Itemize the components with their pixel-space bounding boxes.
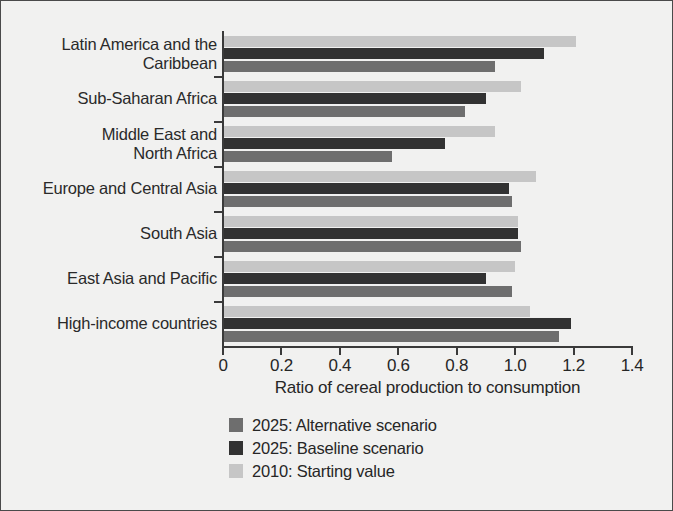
y-axis-tick — [214, 211, 223, 213]
x-axis-tick-label: 0.4 — [328, 356, 351, 376]
bar — [223, 261, 515, 272]
x-axis-tick-label: 0.2 — [270, 356, 293, 376]
chart-legend: 2025: Alternative scenario2025: Baseline… — [229, 415, 437, 484]
category-label: Latin America and theCaribbean — [2, 35, 217, 73]
bar — [223, 61, 495, 72]
category-label: Europe and Central Asia — [2, 179, 217, 198]
legend-label: 2025: Alternative scenario — [252, 416, 437, 435]
bar — [223, 331, 559, 342]
bar — [223, 273, 486, 284]
legend-item[interactable]: 2025: Baseline scenario — [229, 438, 437, 458]
legend-swatch-icon — [229, 418, 243, 432]
x-axis-tick-label: 0 — [218, 356, 227, 376]
plot-area — [223, 31, 632, 346]
bar-group — [223, 301, 632, 346]
category-label: South Asia — [2, 224, 217, 243]
legend-label: 2010: Starting value — [252, 462, 395, 481]
category-label: East Asia and Pacific — [2, 269, 217, 288]
bar-group — [223, 166, 632, 211]
chart-figure: Latin America and theCaribbeanSub-Sahara… — [0, 0, 673, 511]
bar — [223, 151, 392, 162]
x-axis-tick — [573, 346, 575, 355]
bar — [223, 286, 512, 297]
bar — [223, 171, 536, 182]
category-label: High-income countries — [2, 314, 217, 333]
legend-item[interactable]: 2010: Starting value — [229, 461, 437, 481]
y-axis-tick — [214, 166, 223, 168]
bar — [223, 138, 445, 149]
bar-group — [223, 31, 632, 76]
bar — [223, 48, 544, 59]
x-axis-tick — [280, 346, 282, 355]
bar — [223, 241, 521, 252]
bar — [223, 306, 530, 317]
bar-group — [223, 211, 632, 256]
legend-label: 2025: Baseline scenario — [252, 439, 424, 458]
category-label: Sub-Saharan Africa — [2, 89, 217, 108]
y-axis-tick — [214, 121, 223, 123]
bar — [223, 228, 518, 239]
x-axis-tick — [456, 346, 458, 355]
bar-group — [223, 121, 632, 166]
y-axis-tick — [214, 256, 223, 258]
bar — [223, 81, 521, 92]
bar — [223, 216, 518, 227]
bar — [223, 196, 512, 207]
bar — [223, 183, 509, 194]
bar-group — [223, 256, 632, 301]
y-axis-tick — [214, 76, 223, 78]
bar — [223, 93, 486, 104]
x-axis-title: Ratio of cereal production to consumptio… — [222, 378, 633, 398]
x-axis-tick-label: 0.8 — [445, 356, 468, 376]
bar — [223, 106, 465, 117]
bar — [223, 318, 571, 329]
x-axis-tick-label: 1.0 — [504, 356, 527, 376]
legend-swatch-icon — [229, 441, 243, 455]
y-axis-line — [222, 31, 224, 346]
x-axis-line — [222, 346, 633, 348]
legend-swatch-icon — [229, 464, 243, 478]
category-label: Middle East andNorth Africa — [2, 125, 217, 163]
x-axis-tick — [514, 346, 516, 355]
x-axis-tick-label: 1.2 — [562, 356, 585, 376]
x-axis-tick-label: 0.6 — [387, 356, 410, 376]
x-axis-tick — [631, 346, 633, 355]
bar — [223, 36, 576, 47]
y-axis-tick — [214, 301, 223, 303]
x-axis-tick — [397, 346, 399, 355]
category-axis-labels: Latin America and theCaribbeanSub-Sahara… — [1, 1, 217, 511]
bar-group — [223, 76, 632, 121]
x-axis-tick — [222, 346, 224, 355]
bar — [223, 126, 495, 137]
x-axis-tick-label: 1.4 — [621, 356, 644, 376]
legend-item[interactable]: 2025: Alternative scenario — [229, 415, 437, 435]
x-axis-tick — [339, 346, 341, 355]
